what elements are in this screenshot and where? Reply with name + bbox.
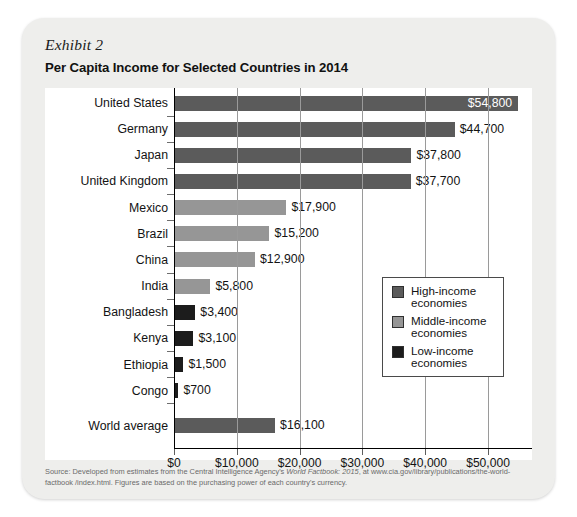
gridline	[488, 88, 489, 448]
x-axis-tick	[300, 449, 301, 455]
bar-value-label: $16,100	[280, 418, 324, 433]
bar-value-label: $37,800	[416, 148, 460, 163]
bar-world-average	[174, 418, 275, 433]
bar-value-label: $17,900	[291, 200, 335, 215]
chart-rows-container: United States$54,800Germany$44,700Japan$…	[45, 88, 532, 460]
x-axis-tick	[237, 449, 238, 455]
legend-label: Low-income economies	[411, 345, 474, 370]
chart-row: World average$16,100	[45, 413, 532, 439]
legend-item-middle: Middle-income economies	[392, 315, 495, 340]
y-axis-tick	[167, 403, 174, 404]
category-label: World average	[45, 413, 168, 439]
chart-row: Brazil$15,200	[45, 221, 532, 247]
source-note: Source: Developed from estimates from th…	[45, 467, 527, 488]
legend-swatch-high	[392, 286, 404, 298]
x-axis-tick	[488, 449, 489, 455]
y-axis-line	[174, 88, 175, 448]
bar-value-label: $3,100	[198, 331, 236, 346]
page-title: Per Capita Income for Selected Countries…	[45, 60, 348, 75]
gridline	[362, 88, 363, 448]
bar-germany	[174, 122, 455, 137]
gridline	[237, 88, 238, 448]
legend-label: Middle-income economies	[411, 315, 486, 340]
chart-row: United Kingdom$37,700	[45, 168, 532, 194]
chart-plot-area: United States$54,800Germany$44,700Japan$…	[45, 88, 532, 460]
x-axis-line	[174, 448, 532, 449]
bar-ethiopia	[174, 357, 183, 372]
legend-label: High-income economies	[411, 285, 476, 310]
category-label: Bangladesh	[45, 299, 168, 325]
category-label: Mexico	[45, 195, 168, 221]
bar-value-label: $44,700	[460, 122, 504, 137]
chart-row: Congo$700	[45, 378, 532, 404]
chart-row: China$12,900	[45, 247, 532, 273]
exhibit-label: Exhibit 2	[45, 36, 103, 54]
category-label: Congo	[45, 378, 168, 404]
bar-united-kingdom	[174, 174, 411, 189]
bar-value-label: $12,900	[260, 252, 304, 267]
x-axis-tick	[174, 449, 175, 455]
category-label: Brazil	[45, 221, 168, 247]
bar-value-label: $700	[183, 383, 210, 398]
legend-item-low: Low-income economies	[392, 345, 495, 370]
x-axis-tick	[362, 449, 363, 455]
bar-china	[174, 252, 255, 267]
gridline	[425, 88, 426, 448]
chart-row: Japan$37,800	[45, 142, 532, 168]
bar-kenya	[174, 331, 193, 346]
source-citation-title: World Factbook: 2015	[286, 467, 358, 476]
category-label: Kenya	[45, 325, 168, 351]
category-label: United Kingdom	[45, 168, 168, 194]
bar-india	[174, 279, 210, 294]
legend-swatch-low	[392, 346, 404, 358]
bar-mexico	[174, 200, 286, 215]
legend-item-high: High-income economies	[392, 285, 495, 310]
category-label: Germany	[45, 116, 168, 142]
bar-brazil	[174, 226, 269, 241]
bar-value-label: $3,400	[200, 305, 238, 320]
chart-row: United States$54,800	[45, 90, 532, 116]
chart-legend: High-income economiesMiddle-income econo…	[382, 277, 504, 377]
gridline	[300, 88, 301, 448]
category-label: India	[45, 273, 168, 299]
chart-row: Mexico$17,900	[45, 195, 532, 221]
category-label: United States	[45, 90, 168, 116]
category-label: Ethiopia	[45, 352, 168, 378]
bar-value-label: $15,200	[274, 226, 318, 241]
bar-japan	[174, 148, 411, 163]
bar-value-label: $1,500	[188, 357, 226, 372]
bar-value-label: $5,800	[215, 279, 253, 294]
bar-bangladesh	[174, 305, 195, 320]
category-label: Japan	[45, 142, 168, 168]
legend-swatch-middle	[392, 316, 404, 328]
x-axis-tick	[425, 449, 426, 455]
category-label: China	[45, 247, 168, 273]
bar-value-label: $54,800	[174, 96, 512, 111]
bar-value-label: $37,700	[416, 174, 460, 189]
exhibit-card: Exhibit 2 Per Capita Income for Selected…	[22, 18, 555, 499]
chart-row: Germany$44,700	[45, 116, 532, 142]
